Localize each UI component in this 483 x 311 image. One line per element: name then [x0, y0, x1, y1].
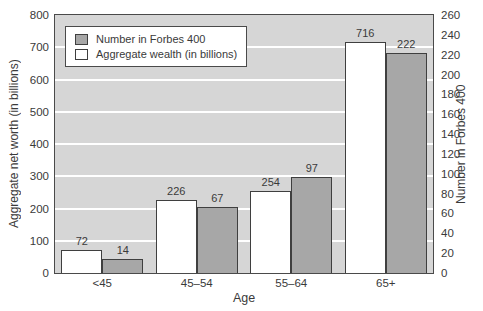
bar-right-<45	[102, 259, 143, 273]
bar-left-45–54	[156, 200, 197, 273]
bar-right-55–64	[291, 177, 332, 273]
right-axis-tick: 120	[441, 147, 481, 161]
left-axis-tick: 500	[2, 105, 49, 119]
right-axis-tick: 140	[441, 127, 481, 141]
bar-value-label: 254	[250, 176, 291, 188]
x-tick-label: 55–64	[246, 277, 336, 289]
left-axis-tick: 400	[2, 137, 49, 151]
legend-item-forbes-count: Number in Forbes 400	[75, 33, 246, 45]
x-tick-label: 65+	[341, 277, 431, 289]
x-tick-label: 45–54	[152, 277, 242, 289]
left-axis-tick: 700	[2, 40, 49, 54]
bar-chart-figure: 72142266725497716222 Aggregate net worth…	[0, 0, 483, 311]
x-axis-title: Age	[55, 291, 433, 305]
bar-left-55–64	[250, 191, 291, 273]
bar-value-label: 226	[156, 185, 197, 197]
right-axis-tick: 220	[441, 48, 481, 62]
legend-label: Aggregate wealth (in billions)	[96, 48, 237, 60]
right-axis-tick: 0	[441, 266, 481, 280]
bar-value-label: 72	[61, 235, 102, 247]
right-axis-tick: 180	[441, 87, 481, 101]
bar-right-45–54	[197, 207, 238, 273]
bar-value-label: 222	[386, 38, 427, 50]
bar-value-label: 67	[197, 192, 238, 204]
left-axis-tick: 200	[2, 202, 49, 216]
left-axis-tick: 300	[2, 169, 49, 183]
left-axis-tick: 800	[2, 8, 49, 22]
bar-right-65+	[386, 53, 427, 273]
right-axis-tick: 200	[441, 68, 481, 82]
gray-swatch-icon	[75, 34, 88, 45]
right-axis-tick: 260	[441, 8, 481, 22]
white-swatch-icon	[75, 49, 88, 60]
right-axis-tick: 60	[441, 206, 481, 220]
right-axis-tick: 100	[441, 167, 481, 181]
bar-left-<45	[61, 250, 102, 273]
legend-item-aggregate-wealth: Aggregate wealth (in billions)	[75, 48, 246, 60]
right-axis-tick: 160	[441, 107, 481, 121]
right-axis-tick: 40	[441, 226, 481, 240]
bar-left-65+	[345, 42, 386, 273]
x-tick-label: <45	[57, 277, 147, 289]
right-axis-tick: 240	[441, 28, 481, 42]
legend-label: Number in Forbes 400	[96, 33, 205, 45]
bar-value-label: 716	[345, 27, 386, 39]
right-axis-tick: 80	[441, 187, 481, 201]
left-axis-tick: 100	[2, 234, 49, 248]
right-axis-tick: 20	[441, 246, 481, 260]
legend: Number in Forbes 400 Aggregate wealth (i…	[65, 26, 247, 67]
bar-value-label: 97	[291, 162, 332, 174]
left-axis-tick: 0	[2, 266, 49, 280]
bar-value-label: 14	[102, 244, 143, 256]
left-axis-tick: 600	[2, 73, 49, 87]
